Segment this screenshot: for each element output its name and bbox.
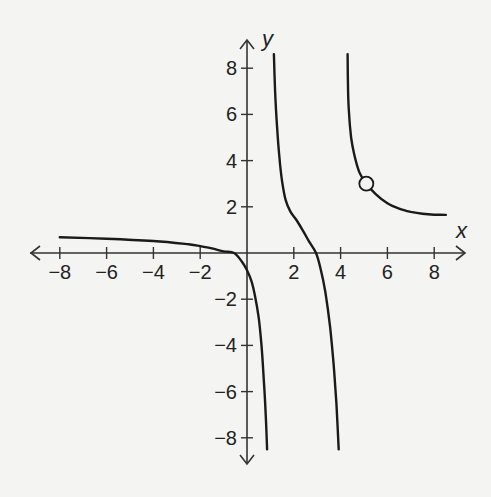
middle-branch-curve xyxy=(274,54,339,449)
open-circle-hole-icon xyxy=(359,177,373,191)
y-tick-label: 6 xyxy=(226,103,237,125)
axes xyxy=(30,40,465,464)
x-tick-label: 8 xyxy=(429,261,440,283)
x-tick-label: −8 xyxy=(48,261,71,283)
chart-canvas: −8−6−4−224688642−2−4−6−8 x y xyxy=(0,0,491,497)
x-tick-label: −6 xyxy=(95,261,118,283)
x-tick-label: −4 xyxy=(142,261,165,283)
x-tick-label: 6 xyxy=(382,261,393,283)
x-tick-label: 2 xyxy=(288,261,299,283)
y-axis-label: y xyxy=(260,26,275,51)
x-tick-label: −2 xyxy=(189,261,212,283)
upper-branch-curve xyxy=(348,54,446,215)
y-tick-label: −6 xyxy=(214,381,237,403)
function-graph: −8−6−4−224688642−2−4−6−8 x y xyxy=(0,0,491,497)
annotations xyxy=(359,177,373,191)
y-tick-label: −8 xyxy=(214,427,237,449)
x-axis-label: x xyxy=(455,218,468,243)
x-tick-label: 4 xyxy=(335,261,346,283)
y-tick-label: −4 xyxy=(214,334,237,356)
y-tick-label: 2 xyxy=(226,196,237,218)
y-tick-label: −2 xyxy=(214,288,237,310)
y-tick-label: 4 xyxy=(226,150,237,172)
y-tick-label: 8 xyxy=(226,57,237,79)
